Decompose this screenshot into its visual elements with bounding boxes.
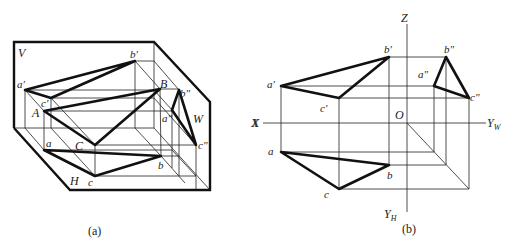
label-origin-O: O xyxy=(395,108,404,122)
label-C: C xyxy=(75,139,84,153)
label-b-b-dprime: b″ xyxy=(444,43,455,55)
label-b-dprime: b″ xyxy=(180,87,191,99)
label-axis-Z: Z xyxy=(401,11,408,25)
label-c: c xyxy=(88,176,93,188)
miter-line xyxy=(407,123,469,189)
label-B: B xyxy=(160,77,168,91)
label-a: a xyxy=(46,137,52,149)
figure-a-pictorial: V H W X a′ b′ c′ A B C b″ a″ c″ a b c (a… xyxy=(14,42,259,238)
label-axis-YH: YH xyxy=(384,207,398,223)
label-plane-V: V xyxy=(18,46,27,60)
label-b-b-prime: b′ xyxy=(384,43,393,55)
label-b-prime: b′ xyxy=(130,48,139,60)
plane-frame xyxy=(14,42,210,190)
label-c-dprime: c″ xyxy=(198,139,208,151)
label-b-a-dprime: a″ xyxy=(418,68,429,80)
label-plane-H: H xyxy=(69,174,80,188)
label-a-dprime: a″ xyxy=(162,112,173,124)
label-b-a-prime: a′ xyxy=(267,78,276,90)
label-a-prime: a′ xyxy=(17,78,26,90)
label-b-b: b xyxy=(387,169,393,181)
triangle-h-projection xyxy=(44,150,161,176)
triangle-h-projection-b xyxy=(281,152,389,189)
label-plane-W: W xyxy=(193,112,204,126)
label-b-c-dprime: c″ xyxy=(470,91,480,103)
label-b-c: c xyxy=(324,188,329,200)
projection-diagram: V H W X a′ b′ c′ A B C b″ a″ c″ a b c (a… xyxy=(0,0,509,249)
caption-a: (a) xyxy=(88,224,101,238)
label-A: A xyxy=(31,106,40,120)
label-b: b xyxy=(158,159,164,171)
label-b-a: a xyxy=(268,145,274,157)
figure-b-orthographic: Z X O YW YH a′ b′ c′ a b c a″ b″ c″ (b) xyxy=(251,11,502,236)
triangle-w-projection-b xyxy=(434,57,469,98)
triangle-v-projection xyxy=(25,61,135,98)
label-axis-X-b: X xyxy=(251,116,260,130)
triangle-v-projection-b xyxy=(281,57,389,98)
caption-b: (b) xyxy=(402,222,416,236)
label-b-c-prime: c′ xyxy=(320,102,328,114)
label-c-prime: c′ xyxy=(41,97,49,109)
label-axis-YW: YW xyxy=(487,116,502,132)
